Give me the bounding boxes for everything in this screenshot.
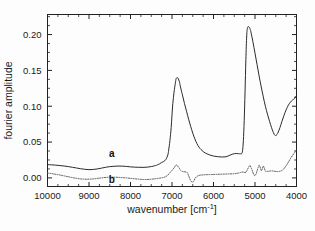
y-tick-label: 0.15 <box>23 65 42 76</box>
x-tick-label: 7000 <box>161 190 182 201</box>
y-axis-tick-labels: 0.000.050.100.150.20 <box>23 29 42 183</box>
y-axis-title: fourier amplitude <box>2 61 14 139</box>
figure-container: 10000900080007000600050004000 0.000.050.… <box>0 0 315 231</box>
x-tick-label: 9000 <box>78 190 99 201</box>
y-axis-ticks <box>48 17 297 178</box>
x-tick-label: 6000 <box>203 190 224 201</box>
series-a-line <box>48 27 297 170</box>
y-tick-label: 0.10 <box>23 101 42 112</box>
y-tick-label: 0.00 <box>23 172 42 183</box>
x-tick-label: 5000 <box>244 190 265 201</box>
x-axis-title: wavenumber [cm-1] <box>126 201 217 215</box>
axes-frame <box>48 15 297 187</box>
y-tick-label: 0.05 <box>23 136 42 147</box>
y-tick-label: 0.20 <box>23 29 42 40</box>
data-curves <box>48 27 297 183</box>
series-b-line <box>48 150 297 182</box>
x-tick-label: 10000 <box>34 190 60 201</box>
fourier-amplitude-chart: 10000900080007000600050004000 0.000.050.… <box>0 0 315 231</box>
x-axis-ticks <box>48 15 297 187</box>
curve-label-a: a <box>109 148 115 159</box>
x-axis-tick-labels: 10000900080007000600050004000 <box>34 190 307 201</box>
x-tick-label: 8000 <box>120 190 141 201</box>
plot-frame <box>48 15 297 187</box>
curve-label-b: b <box>109 174 115 185</box>
x-tick-label: 4000 <box>286 190 307 201</box>
